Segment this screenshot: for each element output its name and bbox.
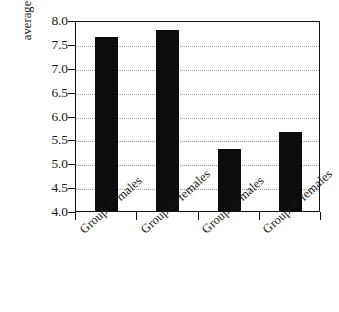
y-axis-tick-mark bbox=[68, 117, 75, 118]
y-axis-tick-label: 6.5 bbox=[22, 86, 68, 100]
y-axis-tick-label: 4.5 bbox=[22, 181, 68, 195]
y-axis-tick-mark bbox=[68, 69, 75, 70]
y-axis-tick-label: 7.0 bbox=[22, 62, 68, 76]
y-axis-tick-label: 7.5 bbox=[22, 38, 68, 52]
bar bbox=[95, 37, 118, 211]
y-axis-tick-label: 5.0 bbox=[22, 157, 68, 171]
x-axis-tick-mark bbox=[259, 212, 260, 220]
bar bbox=[156, 30, 179, 211]
y-axis-tick-mark bbox=[68, 93, 75, 94]
y-axis-tick-label: 5.5 bbox=[22, 133, 68, 147]
x-axis-tick-mark bbox=[136, 212, 137, 220]
x-axis-tick-mark bbox=[320, 212, 321, 220]
y-axis-tick-label: 4.0 bbox=[22, 205, 68, 219]
y-axis-tick-mark bbox=[68, 140, 75, 141]
y-axis-tick-label: 6.0 bbox=[22, 110, 68, 124]
y-axis-tick-mark bbox=[68, 164, 75, 165]
y-axis-tick-mark bbox=[68, 45, 75, 46]
y-axis-tick-mark bbox=[68, 212, 75, 213]
x-axis-tick-mark bbox=[198, 212, 199, 220]
y-axis-tick-mark bbox=[68, 188, 75, 189]
y-axis-tick-label: 8.0 bbox=[22, 14, 68, 28]
y-axis-tick-mark bbox=[68, 21, 75, 22]
y-axis-tick-labels: 8.07.57.06.56.05.55.04.54.0 bbox=[0, 0, 68, 312]
x-axis-tick-mark bbox=[75, 212, 76, 220]
bar-chart-figure: average HbA1C (%) 8.07.57.06.56.05.55.04… bbox=[0, 0, 339, 312]
